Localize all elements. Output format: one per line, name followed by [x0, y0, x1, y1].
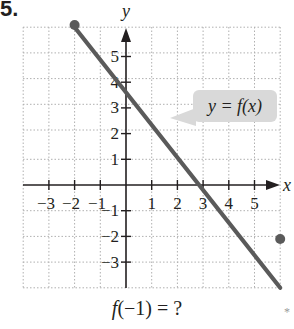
svg-text:−3: −3 — [101, 253, 119, 272]
callout-pointer-icon — [170, 108, 196, 126]
svg-text:4: 4 — [225, 194, 234, 213]
endpoint-dot-left — [70, 20, 80, 30]
question-expression: (−1) = ? — [117, 297, 182, 319]
x-tick-labels: −3 −2 −1 1 2 3 4 5 — [37, 194, 259, 213]
y-axis-label: y — [120, 1, 130, 21]
svg-text:−2: −2 — [62, 194, 80, 213]
svg-text:2: 2 — [173, 194, 182, 213]
y-axis-arrow-icon — [121, 28, 131, 42]
y-axis — [121, 28, 131, 288]
grid-lines — [23, 27, 281, 288]
svg-text:y = f(x): y = f(x) — [206, 96, 262, 117]
svg-text:5: 5 — [250, 194, 259, 213]
x-axis-label: x — [282, 175, 291, 195]
svg-text:2: 2 — [111, 124, 120, 143]
svg-text:5: 5 — [111, 47, 120, 66]
svg-text:1: 1 — [111, 150, 120, 169]
function-graph: −3 −2 −1 1 2 3 4 5 5 4 3 2 1 −1 −2 −3 y … — [0, 0, 294, 329]
svg-text:−2: −2 — [101, 227, 119, 246]
x-axis-arrow-icon — [266, 180, 280, 190]
svg-text:3: 3 — [111, 98, 120, 117]
asterisk-marker: * — [284, 305, 290, 320]
svg-text:−1: −1 — [101, 201, 119, 220]
function-callout: y = f(x) — [170, 90, 277, 126]
question-text: f(−1) = ? — [0, 297, 294, 320]
svg-text:−3: −3 — [37, 194, 55, 213]
endpoint-dot-right — [275, 234, 285, 244]
svg-text:1: 1 — [147, 194, 156, 213]
